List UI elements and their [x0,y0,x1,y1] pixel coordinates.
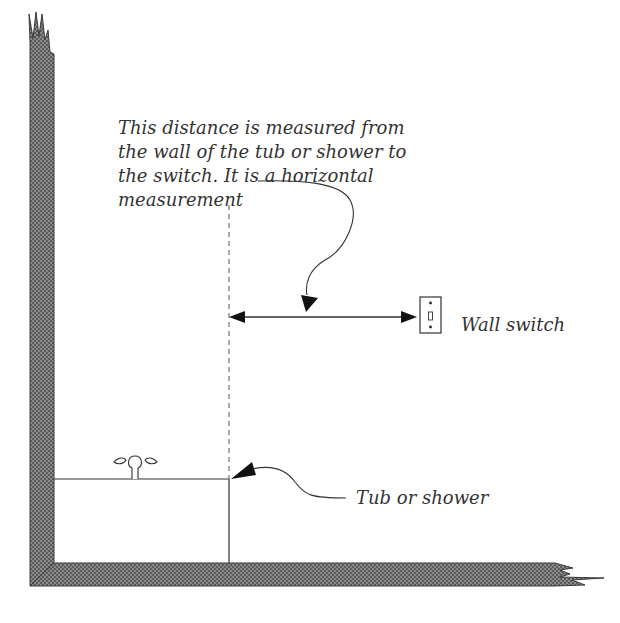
measurement-note: This distance is measured from the wall … [118,116,406,212]
note-line: the switch. It is a horizontal [118,164,406,188]
note-line: the wall of the tub or shower to [118,140,406,164]
arrowhead-left-icon [229,311,245,323]
measurement-arrow [229,311,417,323]
faucet-icon [114,456,157,479]
bathroom-plan-diagram [0,0,620,623]
wall-switch-label: Wall switch [461,313,565,337]
left-wall [29,12,54,586]
bottom-wall [30,563,604,586]
note-line: measurement [118,188,406,212]
arrowhead-down-icon [301,295,318,312]
tub-or-shower-label: Tub or shower [356,486,488,510]
arrowhead-tub-icon [231,462,256,479]
tub-leader-arrow [231,462,346,498]
wall-switch-icon [420,297,441,333]
arrowhead-right-icon [401,311,417,323]
tub-outline [54,479,229,563]
note-line: This distance is measured from [118,116,406,140]
